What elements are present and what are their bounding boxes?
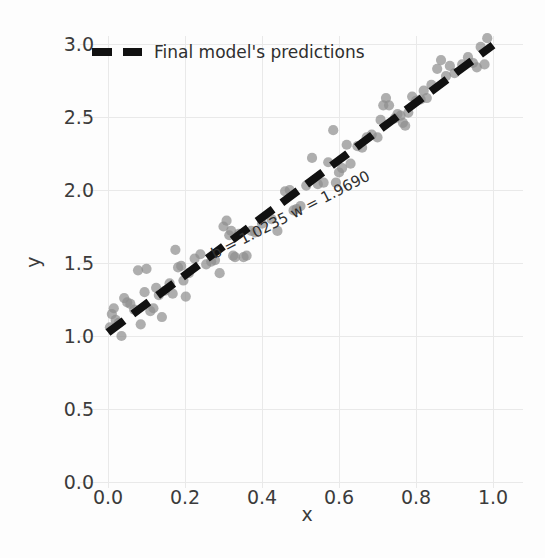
x-tick-label: 0.8 bbox=[401, 486, 431, 508]
scatter-point bbox=[157, 312, 167, 322]
scatter-plot-canvas: 0.00.20.40.60.81.0 0.00.51.01.52.02.53.0… bbox=[0, 0, 545, 558]
scatter-point bbox=[176, 261, 186, 271]
y-tick-label: 0.0 bbox=[64, 471, 94, 493]
scatter-point bbox=[195, 249, 205, 259]
x-tick-label: 1.0 bbox=[478, 486, 508, 508]
scatter-point bbox=[141, 264, 151, 274]
y-tick-label: 3.0 bbox=[64, 33, 94, 55]
y-axis-title: y bbox=[22, 256, 44, 267]
scatter-point bbox=[345, 159, 355, 169]
scatter-point bbox=[215, 268, 225, 278]
scatter-point bbox=[400, 121, 410, 131]
scatter-point bbox=[133, 265, 143, 275]
scatter-point bbox=[136, 319, 146, 329]
scatter-point bbox=[242, 251, 252, 261]
x-tick-label: 0.6 bbox=[324, 486, 354, 508]
scatter-point bbox=[307, 153, 317, 163]
x-tick-label: 0.4 bbox=[247, 486, 277, 508]
y-tick-label: 1.0 bbox=[64, 325, 94, 347]
scatter-point bbox=[432, 64, 442, 74]
y-tick-label: 0.5 bbox=[64, 398, 94, 420]
scatter-point bbox=[342, 140, 352, 150]
scatter-point bbox=[479, 59, 489, 69]
legend-label: Final model's predictions bbox=[154, 42, 365, 62]
scatter-point bbox=[181, 291, 191, 301]
scatter-point bbox=[109, 303, 119, 313]
x-tick-label: 0.0 bbox=[93, 486, 123, 508]
scatter-point bbox=[328, 125, 338, 135]
scatter-point bbox=[116, 331, 126, 341]
y-tick-label: 2.0 bbox=[64, 179, 94, 201]
scatter-point bbox=[221, 216, 231, 226]
scatter-point bbox=[139, 287, 149, 297]
x-tick-label: 0.2 bbox=[170, 486, 200, 508]
x-axis-title: x bbox=[301, 503, 312, 525]
chart-figure: 0.00.20.40.60.81.0 0.00.51.01.52.02.53.0… bbox=[0, 0, 545, 558]
scatter-point bbox=[170, 245, 180, 255]
y-tick-label: 2.5 bbox=[64, 106, 94, 128]
scatter-point bbox=[482, 33, 492, 43]
scatter-point bbox=[436, 55, 446, 65]
y-tick-label: 1.5 bbox=[64, 252, 94, 274]
scatter-point bbox=[384, 100, 394, 110]
